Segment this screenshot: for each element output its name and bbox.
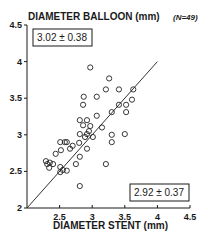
y-tick-label: 4	[17, 57, 22, 67]
data-point	[109, 140, 114, 145]
stent-stat-text: 2.92 ± 0.37	[134, 187, 184, 198]
data-point	[77, 154, 82, 159]
y-tick-label: 2.5	[9, 166, 22, 176]
data-point	[77, 131, 82, 136]
data-point	[116, 87, 121, 92]
data-point	[77, 183, 82, 188]
scatter-chart: 22.533.544.52.533.544.5 DIAMETER BALLOON…	[0, 0, 208, 246]
data-point	[129, 97, 134, 102]
data-point	[109, 132, 114, 137]
data-point	[84, 118, 89, 123]
data-point	[99, 125, 104, 130]
stent-stat-box: 2.92 ± 0.37	[130, 184, 189, 201]
data-point	[53, 151, 58, 156]
data-point	[94, 94, 99, 99]
balloon-stat-text: 3.02 ± 0.38	[37, 32, 87, 43]
data-point	[73, 161, 78, 166]
chart-title: DIAMETER BALLOON (mm)	[28, 11, 160, 22]
y-tick-label: 3.5	[9, 93, 22, 103]
data-point	[103, 87, 108, 92]
data-point	[94, 113, 99, 118]
y-tick-label: 3	[17, 130, 22, 140]
data-point	[107, 76, 112, 81]
data-point	[103, 161, 108, 166]
data-point	[81, 94, 86, 99]
data-point	[77, 118, 82, 123]
data-point	[124, 110, 129, 115]
data-point	[80, 102, 85, 107]
points-layer	[43, 65, 136, 189]
data-point	[124, 102, 129, 107]
data-point	[80, 123, 85, 128]
y-tick-label: 4.5	[9, 20, 22, 30]
data-point	[88, 123, 93, 128]
sample-size-label: (N=49)	[173, 13, 198, 22]
data-point	[84, 146, 89, 151]
data-point	[122, 131, 127, 136]
data-point	[90, 134, 95, 139]
balloon-stat-box: 3.02 ± 0.38	[33, 29, 92, 46]
data-point	[77, 140, 82, 145]
data-point	[58, 148, 63, 153]
data-point	[88, 65, 93, 70]
x-axis-title: DIAMETER STENT (mm)	[53, 220, 168, 231]
y-tick-label: 2	[17, 203, 22, 213]
x-tick-label: 4.5	[184, 212, 197, 222]
